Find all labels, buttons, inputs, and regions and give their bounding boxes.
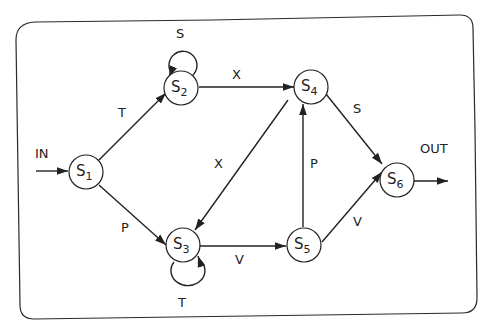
label-p-s5-s4: P <box>310 156 318 171</box>
label-v-s5-s6: V <box>353 214 362 229</box>
label-p-s1-s3: P <box>121 220 129 235</box>
label-x-s2-s4: X <box>232 67 241 82</box>
edge-s3-loop <box>171 260 205 286</box>
edge-s4-s3 <box>195 100 288 230</box>
node-s2: S2 <box>164 71 198 105</box>
label-v-s3-s5: V <box>235 252 244 267</box>
label-t-s1-s2: T <box>117 105 126 120</box>
node-s5: S5 <box>287 228 321 262</box>
edge-s5-s6 <box>322 172 382 242</box>
label-s-s4-s6: S <box>353 101 361 116</box>
node-s1: S1 <box>69 155 103 189</box>
edge-s1-s2 <box>99 93 166 160</box>
node-s3: S3 <box>166 228 200 262</box>
label-in: IN <box>35 146 49 161</box>
node-s6: S6 <box>380 163 414 197</box>
edge-s4-s6 <box>322 89 382 164</box>
label-t-loop: T <box>177 295 186 310</box>
label-s-loop: S <box>176 26 184 41</box>
node-s4: S4 <box>294 70 328 104</box>
label-out: OUT <box>420 141 448 156</box>
label-x-s4-s3: X <box>214 156 223 171</box>
edge-s1-s3 <box>99 185 166 245</box>
automaton-diagram: IN T P S X X S P V T V OUT S1 S2 S3 S4 S… <box>0 0 484 335</box>
